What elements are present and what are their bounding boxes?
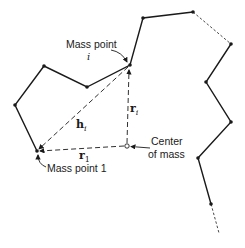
chain-right-section [198, 44, 231, 204]
chain-solid-bonds [15, 12, 231, 204]
mass-point-dot [191, 10, 195, 14]
mass-point-dot [85, 85, 89, 89]
vector-label-h-i: hi [76, 118, 87, 133]
mass-point-1-dot [35, 149, 39, 153]
label-mass-point-i: Mass point [66, 38, 117, 50]
callout-arrow-mass-point-i [111, 50, 127, 62]
label-mass-point-i-index: i [87, 51, 90, 62]
vectors [39, 67, 129, 151]
mass-point-dot [229, 120, 233, 124]
mass-point-dot [229, 42, 233, 46]
mass-point-dot [141, 16, 145, 20]
label-of-mass: of mass [148, 148, 185, 160]
mass-point-i-dot [128, 63, 132, 67]
vector-r-i [127, 70, 129, 143]
mass-point-dot [204, 80, 208, 84]
polymer-chain-diagram: Mass point i Center of mass Mass point 1… [0, 0, 245, 248]
vector-label-r-1: r1 [79, 149, 90, 164]
mass-point-dot [196, 156, 200, 160]
center-of-mass-marker [125, 144, 129, 148]
mass-points [13, 10, 233, 206]
label-mass-point-1: Mass point 1 [47, 162, 107, 174]
vector-h-i [39, 67, 128, 149]
vector-label-r-i: ri [130, 102, 139, 117]
chain-left-section [15, 12, 193, 151]
callout-arrow-mass-point-1 [38, 155, 46, 167]
mass-point-dot [13, 103, 17, 107]
mass-point-dot [42, 64, 46, 68]
chain-dashed-bonds [193, 12, 231, 233]
mass-point-dot [209, 202, 213, 206]
chain-dashed-top [193, 12, 231, 44]
label-center: Center [151, 135, 183, 147]
chain-dashed-bottom [211, 204, 219, 233]
